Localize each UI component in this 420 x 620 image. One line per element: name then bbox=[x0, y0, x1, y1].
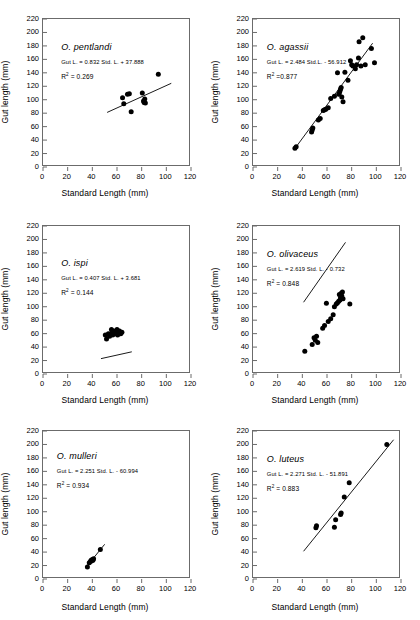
data-point bbox=[98, 547, 103, 552]
y-tick-label: 120 bbox=[236, 81, 249, 90]
chart-agassii: Gut length (mm) Standard Length (mm) 020… bbox=[210, 0, 420, 205]
data-point bbox=[358, 64, 363, 69]
y-tick-label: 180 bbox=[236, 40, 249, 49]
panel-luteus: Gut length (mm) Standard Length (mm) 020… bbox=[210, 408, 420, 620]
y-tick-label: 0 bbox=[35, 369, 39, 378]
x-axis-title: Standard Length (mm) bbox=[0, 395, 210, 405]
plot-area bbox=[42, 225, 190, 373]
x-tick-label: 0 bbox=[40, 379, 44, 388]
y-tick-label: 160 bbox=[236, 261, 249, 270]
x-tick-label: 0 bbox=[250, 379, 254, 388]
data-point bbox=[347, 302, 352, 307]
y-tick-label: 0 bbox=[35, 574, 39, 583]
y-tick-label: 40 bbox=[241, 135, 249, 144]
y-tick-label: 200 bbox=[26, 27, 39, 36]
y-tick-label: 40 bbox=[31, 135, 39, 144]
data-point bbox=[341, 296, 346, 301]
r-squared-label: R2 =0.877 bbox=[267, 72, 347, 80]
data-point bbox=[332, 94, 337, 99]
x-tick-label: 120 bbox=[184, 584, 197, 593]
r-squared-label: R2 = 0.934 bbox=[57, 481, 138, 489]
r-squared-label: R2 = 0.269 bbox=[61, 72, 144, 80]
data-point bbox=[354, 62, 359, 67]
y-tick-label: 160 bbox=[26, 466, 39, 475]
regression-equation: Gut L. = 2.271 Std. L. - 51.891 bbox=[267, 471, 348, 477]
data-point bbox=[310, 125, 315, 130]
x-tick-label: 60 bbox=[112, 172, 120, 181]
data-point bbox=[129, 109, 134, 114]
panel-annotation: O. ispiGut L. = 0.407 Std. L. + 3.681R2 … bbox=[61, 258, 140, 296]
figure-gut-length-panels: Gut length (mm) Standard Length (mm) 020… bbox=[0, 0, 420, 620]
data-point bbox=[339, 95, 344, 100]
y-tick-label: 140 bbox=[236, 67, 249, 76]
data-point bbox=[120, 95, 125, 100]
x-tick-label: 80 bbox=[346, 172, 354, 181]
x-tick-label: 20 bbox=[62, 584, 70, 593]
x-tick-label: 120 bbox=[394, 379, 407, 388]
x-axis-title: Standard Length (mm) bbox=[210, 395, 420, 405]
y-tick-label: 40 bbox=[241, 547, 249, 556]
panel-annotation: O. pentlandiGut L. = 0.832 Std. L. + 37.… bbox=[61, 42, 144, 80]
y-tick-label: 40 bbox=[31, 547, 39, 556]
y-tick-label: 60 bbox=[31, 533, 39, 542]
x-axis-title: Standard Length (mm) bbox=[210, 188, 420, 198]
data-point bbox=[314, 334, 319, 339]
data-point bbox=[302, 349, 307, 354]
y-tick-label: 80 bbox=[241, 520, 249, 529]
data-point bbox=[342, 494, 347, 499]
x-tick-label: 20 bbox=[272, 584, 280, 593]
panel-olivaceus: Gut length (mm) Standard Length (mm) 020… bbox=[210, 205, 420, 408]
panel-annotation: O. olivaceusGut L. = 2.619 Std. L. - 0.7… bbox=[267, 249, 345, 287]
y-tick-label: 220 bbox=[236, 221, 249, 230]
data-point bbox=[314, 523, 319, 528]
x-tick-label: 0 bbox=[250, 172, 254, 181]
x-tick-label: 20 bbox=[62, 379, 70, 388]
species-label: O. ispi bbox=[61, 258, 140, 268]
y-tick-label: 200 bbox=[236, 439, 249, 448]
regression-equation: Gut L. = 0.832 Std. L. + 37.888 bbox=[61, 59, 144, 65]
y-axis-title: Gut length (mm) bbox=[0, 61, 10, 124]
x-tick-label: 40 bbox=[297, 172, 305, 181]
y-tick-label: 40 bbox=[31, 342, 39, 351]
y-tick-label: 20 bbox=[31, 355, 39, 364]
y-tick-label: 60 bbox=[241, 121, 249, 130]
x-tick-label: 80 bbox=[136, 379, 144, 388]
x-tick-label: 120 bbox=[184, 379, 197, 388]
y-tick-label: 200 bbox=[26, 439, 39, 448]
y-tick-label: 100 bbox=[236, 94, 249, 103]
x-tick-label: 100 bbox=[159, 379, 172, 388]
y-tick-label: 140 bbox=[26, 479, 39, 488]
y-tick-label: 180 bbox=[26, 452, 39, 461]
chart-olivaceus: Gut length (mm) Standard Length (mm) 020… bbox=[210, 205, 420, 408]
y-tick-label: 160 bbox=[236, 54, 249, 63]
x-tick-label: 80 bbox=[346, 584, 354, 593]
x-axis-title: Standard Length (mm) bbox=[0, 602, 210, 612]
data-point bbox=[326, 105, 331, 110]
y-tick-label: 180 bbox=[236, 247, 249, 256]
y-tick-label: 100 bbox=[26, 301, 39, 310]
y-tick-label: 200 bbox=[26, 234, 39, 243]
y-tick-label: 200 bbox=[236, 27, 249, 36]
y-tick-label: 120 bbox=[26, 288, 39, 297]
y-tick-label: 0 bbox=[35, 162, 39, 171]
x-tick-label: 80 bbox=[346, 379, 354, 388]
species-label: O. luteus bbox=[267, 454, 348, 464]
x-tick-label: 100 bbox=[159, 172, 172, 181]
x-tick-label: 40 bbox=[87, 584, 95, 593]
x-tick-label: 40 bbox=[87, 379, 95, 388]
panel-annotation: O. mulleriGut L. = 2.251 Std. L. - 60.99… bbox=[57, 451, 138, 489]
plot-area bbox=[252, 225, 400, 373]
y-tick-label: 80 bbox=[31, 520, 39, 529]
data-point bbox=[322, 323, 327, 328]
y-tick-label: 120 bbox=[26, 81, 39, 90]
plot-area bbox=[42, 18, 190, 166]
y-tick-label: 80 bbox=[31, 315, 39, 324]
y-tick-label: 120 bbox=[26, 493, 39, 502]
x-tick-label: 20 bbox=[62, 172, 70, 181]
y-tick-label: 160 bbox=[236, 466, 249, 475]
y-tick-label: 100 bbox=[26, 506, 39, 515]
y-tick-label: 140 bbox=[26, 274, 39, 283]
y-tick-label: 220 bbox=[26, 426, 39, 435]
y-tick-label: 20 bbox=[241, 560, 249, 569]
r-squared-label: R2 = 0.848 bbox=[267, 279, 345, 287]
